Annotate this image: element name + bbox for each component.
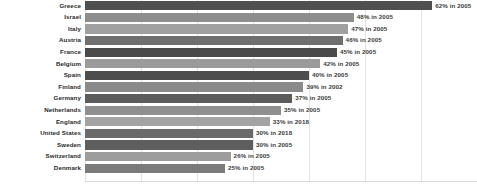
category-label: Spain xyxy=(0,72,85,78)
category-label: Netherlands xyxy=(0,107,85,113)
bar-value-label: 25% in 2005 xyxy=(225,165,264,171)
bar[interactable] xyxy=(85,164,225,173)
bar[interactable] xyxy=(85,13,354,22)
bar-value-label: 39% in 2002 xyxy=(303,84,342,90)
bar[interactable] xyxy=(85,140,253,149)
bar-chart: Greece62% in 2005Israel48% in 2005Italy4… xyxy=(0,0,477,190)
bar-row[interactable]: Finland39% in 2002 xyxy=(0,81,477,93)
bar-track: 33% in 2018 xyxy=(85,116,477,128)
bar-track: 37% in 2005 xyxy=(85,93,477,105)
bar-track: 45% in 2005 xyxy=(85,46,477,58)
bar-track: 39% in 2002 xyxy=(85,81,477,93)
bar[interactable] xyxy=(85,152,231,161)
bar-row[interactable]: Italy47% in 2005 xyxy=(0,23,477,35)
bar-row[interactable]: Israel48% in 2005 xyxy=(0,12,477,24)
bar-track: 30% in 2018 xyxy=(85,128,477,140)
bar-track: 46% in 2005 xyxy=(85,35,477,47)
category-label: England xyxy=(0,119,85,125)
bar-row[interactable]: Germany37% in 2005 xyxy=(0,93,477,105)
bar-value-label: 30% in 2005 xyxy=(253,142,292,148)
bar-track: 35% in 2005 xyxy=(85,104,477,116)
bar-track: 47% in 2005 xyxy=(85,23,477,35)
bar-value-label: 37% in 2005 xyxy=(292,95,331,101)
bar-row[interactable]: United States30% in 2018 xyxy=(0,128,477,140)
bar[interactable] xyxy=(85,24,348,33)
bar-value-label: 30% in 2018 xyxy=(253,130,292,136)
bar-value-label: 26% in 2005 xyxy=(231,153,270,159)
bar[interactable] xyxy=(85,94,292,103)
category-label: Italy xyxy=(0,26,85,32)
bar-row[interactable]: Switzerland26% in 2005 xyxy=(0,151,477,163)
bar-rows: Greece62% in 2005Israel48% in 2005Italy4… xyxy=(0,0,477,174)
category-label: Belgium xyxy=(0,61,85,67)
bar-row[interactable]: Spain40% in 2005 xyxy=(0,70,477,82)
bar-value-label: 45% in 2005 xyxy=(337,49,376,55)
category-label: Finland xyxy=(0,84,85,90)
bar[interactable] xyxy=(85,36,343,45)
bar-track: 30% in 2005 xyxy=(85,139,477,151)
bar[interactable] xyxy=(85,129,253,138)
bar-track: 25% in 2005 xyxy=(85,162,477,174)
bar[interactable] xyxy=(85,1,432,10)
bar-value-label: 48% in 2005 xyxy=(354,14,393,20)
bar-row[interactable]: England33% in 2018 xyxy=(0,116,477,128)
bar-row[interactable]: Sweden30% in 2005 xyxy=(0,139,477,151)
bar[interactable] xyxy=(85,48,337,57)
bar-value-label: 42% in 2005 xyxy=(320,61,359,67)
bar-track: 62% in 2005 xyxy=(85,0,477,12)
category-label: France xyxy=(0,49,85,55)
bar-value-label: 35% in 2005 xyxy=(281,107,320,113)
bar[interactable] xyxy=(85,82,303,91)
category-label: Switzerland xyxy=(0,153,85,159)
bar-value-label: 62% in 2005 xyxy=(432,3,471,9)
bar-track: 40% in 2005 xyxy=(85,70,477,82)
category-label: Austria xyxy=(0,37,85,43)
category-label: Israel xyxy=(0,14,85,20)
bar-value-label: 46% in 2005 xyxy=(343,37,382,43)
category-label: Denmark xyxy=(0,165,85,171)
bar-track: 42% in 2005 xyxy=(85,58,477,70)
axis-baseline xyxy=(85,181,477,182)
bar-row[interactable]: Denmark25% in 2005 xyxy=(0,162,477,174)
bar-track: 26% in 2005 xyxy=(85,151,477,163)
bar[interactable] xyxy=(85,71,309,80)
bar[interactable] xyxy=(85,106,281,115)
bar-track: 48% in 2005 xyxy=(85,12,477,24)
bar-value-label: 40% in 2005 xyxy=(309,72,348,78)
bar-row[interactable]: France45% in 2005 xyxy=(0,46,477,58)
bar-value-label: 47% in 2005 xyxy=(348,26,387,32)
category-label: United States xyxy=(0,130,85,136)
bar[interactable] xyxy=(85,59,320,68)
category-label: Sweden xyxy=(0,142,85,148)
bar[interactable] xyxy=(85,117,270,126)
bar-row[interactable]: Greece62% in 2005 xyxy=(0,0,477,12)
bar-row[interactable]: Austria46% in 2005 xyxy=(0,35,477,47)
category-label: Germany xyxy=(0,95,85,101)
category-label: Greece xyxy=(0,3,85,9)
bar-row[interactable]: Belgium42% in 2005 xyxy=(0,58,477,70)
bar-value-label: 33% in 2018 xyxy=(270,119,309,125)
bar-row[interactable]: Netherlands35% in 2005 xyxy=(0,104,477,116)
